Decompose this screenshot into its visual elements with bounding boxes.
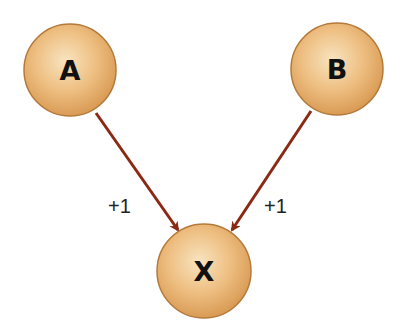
edge-b-to-x: +1 (232, 111, 311, 230)
node-b-label: B (327, 54, 348, 85)
node-b: B (291, 23, 383, 115)
node-x-label: X (194, 256, 215, 287)
node-a-label: A (60, 55, 81, 86)
diagram-canvas: +1 +1 A B X (0, 0, 407, 336)
edge-label-a-to-x: +1 (108, 195, 131, 217)
edge-label-b-to-x: +1 (264, 195, 287, 217)
node-a: A (24, 24, 116, 116)
node-x: X (157, 224, 251, 318)
edge-a-to-x: +1 (96, 113, 178, 230)
